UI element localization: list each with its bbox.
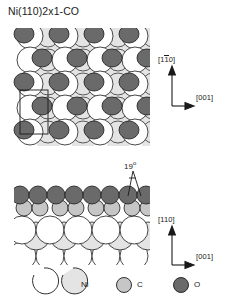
legend-label-o: O xyxy=(194,281,200,289)
side-view-axes xyxy=(169,226,194,268)
top-view-axes xyxy=(169,66,194,109)
tilt-angle-value: 19 xyxy=(124,162,133,171)
legend-label-c: C xyxy=(137,281,143,289)
oxygen-atoms-side-view xyxy=(11,186,155,204)
degree-symbol: o xyxy=(133,160,136,166)
legend-ni-swatch xyxy=(33,268,88,294)
legend-o-swatch xyxy=(174,278,189,293)
figure-canvas: Ni(110)2x1-CO xyxy=(0,0,233,307)
axis-label-top-horizontal: [001] xyxy=(196,94,213,102)
axis-label-bottom-vertical: [110] xyxy=(158,216,175,224)
axis-label-top-vertical: [110] xyxy=(158,56,175,64)
side-view-lattice xyxy=(8,186,162,270)
axis-label-top-v-bar: 1 xyxy=(164,56,168,64)
axis-label-bottom-horizontal: [001] xyxy=(196,253,213,261)
axis-label-top-v-c: 0] xyxy=(169,55,175,64)
top-view-lattice xyxy=(14,23,164,150)
legend-c-swatch xyxy=(117,278,132,293)
legend-label-ni: Ni xyxy=(81,281,89,289)
tilt-angle-label: 19o xyxy=(124,160,136,171)
ni-row-first xyxy=(8,216,148,244)
